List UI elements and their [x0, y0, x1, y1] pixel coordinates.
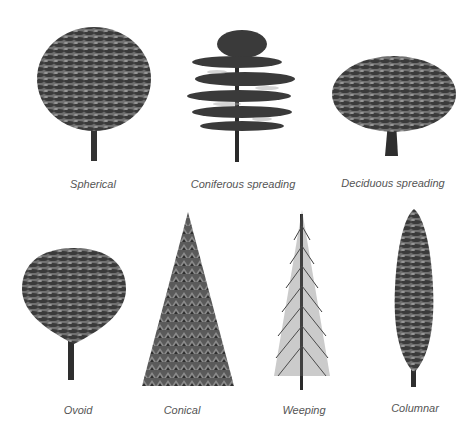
label-coniferous-spreading: Coniferous spreading — [191, 178, 296, 190]
tree-deciduous-spreading — [330, 52, 458, 160]
weeping-tree-icon — [272, 206, 332, 392]
coniferous-spreading-tree-icon — [187, 24, 297, 164]
tree-conical — [140, 210, 236, 390]
tree-spherical — [34, 24, 154, 164]
spherical-tree-icon — [34, 24, 154, 164]
label-ovoid: Ovoid — [64, 404, 93, 416]
label-spherical: Spherical — [70, 178, 116, 190]
tree-columnar — [391, 207, 437, 389]
ovoid-tree-icon — [18, 244, 130, 384]
conical-tree-icon — [140, 210, 236, 390]
deciduous-spreading-tree-icon — [330, 52, 458, 160]
label-deciduous-spreading: Deciduous spreading — [341, 177, 444, 189]
tree-weeping — [272, 206, 332, 392]
label-conical: Conical — [164, 404, 201, 416]
columnar-tree-icon — [391, 207, 437, 389]
label-columnar: Columnar — [391, 402, 439, 414]
tree-coniferous-spreading — [187, 24, 297, 164]
tree-ovoid — [18, 244, 130, 384]
label-weeping: Weeping — [282, 404, 325, 416]
